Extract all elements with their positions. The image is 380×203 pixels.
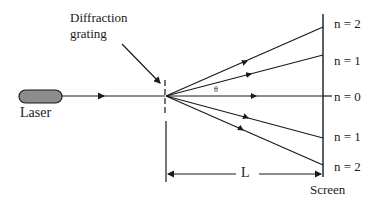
- screen-label: Screen: [310, 183, 345, 196]
- grating-label-line1: Diffraction: [70, 11, 128, 24]
- grating-label-line2: grating: [70, 27, 107, 40]
- distance-label: L: [241, 166, 250, 180]
- ray-n1-top-arrow: [246, 74, 251, 75]
- order-label-n1-top: n = 1: [334, 54, 361, 67]
- grating-pointer-arrow: [122, 44, 160, 83]
- diffraction-diagram: Diffraction grating Laser θ L n = 2 n = …: [0, 0, 380, 203]
- order-label-n0: n = 0: [334, 90, 361, 103]
- diagram-drawing: [0, 0, 380, 203]
- laser-label: Laser: [20, 106, 51, 120]
- order-label-n2-top: n = 2: [334, 17, 361, 30]
- ray-n2-bottom: [166, 96, 323, 165]
- laser-body: [19, 90, 62, 103]
- order-label-n2-bottom: n = 2: [334, 160, 361, 173]
- order-label-n1-bottom: n = 1: [334, 130, 361, 143]
- angle-label: θ: [214, 86, 218, 94]
